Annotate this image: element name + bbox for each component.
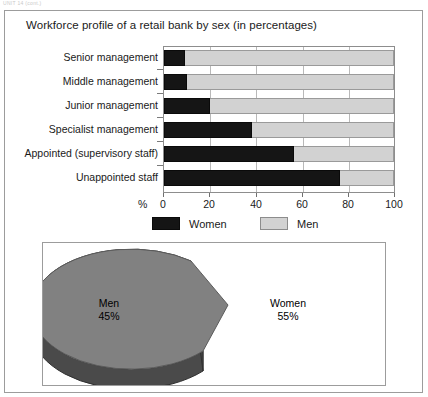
bar-category-axis: Senior management Middle management Juni… xyxy=(5,46,158,193)
bar-men xyxy=(164,74,394,90)
legend-label: Women xyxy=(189,218,227,230)
bar-men xyxy=(164,50,394,66)
bar-category-label: Appointed (supervisory staff) xyxy=(8,145,158,161)
table-row xyxy=(164,170,394,186)
x-axis-tick-label: 80 xyxy=(328,198,368,210)
stacked-bar-chart: Senior management Middle management Juni… xyxy=(0,0,428,245)
pie-slice-women xyxy=(43,249,228,385)
x-axis-tick-label: 40 xyxy=(236,198,276,210)
table-row xyxy=(164,122,394,138)
bar-category-label: Middle management xyxy=(8,73,158,89)
chart-legend: Women Men xyxy=(0,216,428,236)
bar-women xyxy=(164,170,340,186)
x-axis-tick-label: 100 xyxy=(374,198,414,210)
bar-women xyxy=(164,74,187,90)
bar-women xyxy=(164,122,252,138)
bar-women xyxy=(164,50,185,66)
pie-label-women: Women 55% xyxy=(259,297,317,323)
x-axis-tick-label: 60 xyxy=(282,198,322,210)
pie-label-men-value: 45% xyxy=(98,310,119,322)
pie-label-men-name: Men xyxy=(99,297,119,309)
bar-women xyxy=(164,98,210,114)
x-axis-tick-label: 0 xyxy=(143,198,183,210)
x-axis-tick xyxy=(394,193,395,197)
pie-label-men: Men 45% xyxy=(85,297,133,323)
table-row xyxy=(164,74,394,90)
x-axis-tick xyxy=(256,193,257,197)
table-row xyxy=(164,98,394,114)
bar-plot-area xyxy=(163,46,395,193)
legend-label: Men xyxy=(297,218,318,230)
x-axis-tick xyxy=(163,193,164,197)
table-row xyxy=(164,50,394,66)
bar-women xyxy=(164,146,294,162)
bar-category-label: Unappointed staff xyxy=(8,169,158,185)
legend-swatch-icon xyxy=(260,217,288,230)
table-row xyxy=(164,146,394,162)
pie-label-women-value: 55% xyxy=(277,310,298,322)
legend-item-women: Women xyxy=(152,216,227,231)
bar-category-label: Specialist management xyxy=(8,121,158,137)
x-axis-tick xyxy=(209,193,210,197)
x-axis-tick xyxy=(302,193,303,197)
pie-label-women-name: Women xyxy=(270,297,306,309)
legend-swatch-icon xyxy=(152,217,180,230)
legend-item-men: Men xyxy=(260,216,318,231)
x-axis-tick xyxy=(348,193,349,197)
bar-category-label: Junior management xyxy=(8,97,158,113)
x-axis-tick-label: 20 xyxy=(189,198,229,210)
bar-category-label: Senior management xyxy=(8,49,158,65)
